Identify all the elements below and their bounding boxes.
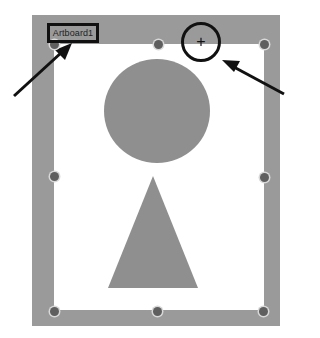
resize-handle-middle-left[interactable] — [50, 172, 59, 181]
circle-shape[interactable] — [104, 59, 210, 163]
resize-handle-bottom-right[interactable] — [259, 307, 268, 316]
resize-handle-bottom-center[interactable] — [153, 307, 162, 316]
resize-handle-top-right[interactable] — [260, 40, 269, 49]
resize-handle-middle-right[interactable] — [260, 173, 269, 182]
artboard-name-text: Artboard1 — [53, 28, 93, 38]
resize-handle-top-center[interactable] — [154, 40, 163, 49]
crosshair-cursor-icon: + — [196, 34, 205, 50]
resize-handle-bottom-left[interactable] — [50, 307, 59, 316]
crosshair-cursor-callout: + — [181, 22, 221, 62]
artboard-name-label[interactable]: Artboard1 — [47, 23, 99, 43]
